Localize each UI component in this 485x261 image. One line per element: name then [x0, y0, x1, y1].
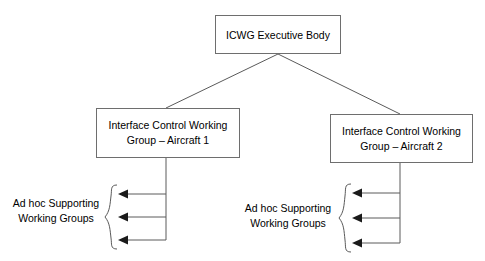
arrowhead-group1-3 [118, 236, 128, 245]
arrowhead-group2-2 [352, 214, 362, 223]
curly-brace-group1 [105, 185, 117, 249]
arrowhead-group2-3 [352, 239, 362, 248]
node-label-icwg-aircraft-2: Interface Control Working Group – Aircra… [337, 124, 466, 154]
node-icwg-aircraft-1[interactable]: Interface Control Working Group – Aircra… [96, 108, 240, 158]
label-adhoc-supporting-working-groups-1: Ad hoc Supporting Working Groups [6, 196, 106, 226]
node-label-icwg-aircraft-1: Interface Control Working Group – Aircra… [104, 118, 233, 148]
arrowheads-group1 [118, 190, 128, 245]
curly-brace-group2 [339, 184, 351, 252]
diagram-canvas: ICWG Executive Body Interface Control Wo… [0, 0, 485, 261]
arrowhead-group1-1 [118, 190, 128, 199]
node-icwg-aircraft-2[interactable]: Interface Control Working Group – Aircra… [330, 114, 473, 163]
arrowheads-group2 [352, 189, 362, 248]
label-adhoc-supporting-working-groups-2: Ad hoc Supporting Working Groups [236, 201, 340, 231]
node-icwg-executive-body[interactable]: ICWG Executive Body [215, 15, 341, 54]
connector-exec-to-icwg2 [278, 54, 400, 114]
arrowhead-group2-1 [352, 189, 362, 198]
node-label-executive: ICWG Executive Body [221, 29, 335, 41]
arrowhead-group1-2 [118, 213, 128, 222]
connector-exec-to-icwg1 [166, 54, 278, 108]
